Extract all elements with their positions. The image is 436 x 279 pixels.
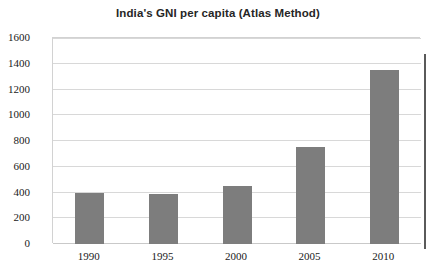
y-axis-tick-label: 1600: [0, 32, 30, 43]
bar-2000: [223, 186, 252, 244]
chart-figure: India's GNI per capita (Atlas Method) 02…: [0, 0, 436, 279]
y-axis-tick-label: 0: [0, 238, 30, 249]
bar-1995: [149, 194, 178, 244]
y-axis-tick-label: 200: [0, 212, 30, 223]
x-axis-tick-label: 2010: [353, 250, 413, 263]
x-axis-tick-label: 1995: [132, 250, 192, 263]
plot-area: 02004006008001000120014001600: [52, 37, 420, 243]
y-axis-tick-label: 800: [0, 135, 30, 146]
x-axis-tick-labels: 19901995200020052010: [52, 250, 420, 266]
x-axis-tick-label: 2000: [206, 250, 266, 263]
y-axis-tick-label: 400: [0, 187, 30, 198]
chart-title: India's GNI per capita (Atlas Method): [0, 7, 436, 19]
x-axis-tick-label: 1990: [59, 250, 119, 263]
bars-layer: [53, 38, 421, 244]
bar-2010: [370, 70, 399, 244]
y-axis-tick-label: 1000: [0, 109, 30, 120]
bar-2005: [296, 147, 325, 244]
y-axis-tick-label: 600: [0, 161, 30, 172]
right-frame-edge: [424, 54, 426, 249]
y-axis-tick-label: 1400: [0, 58, 30, 69]
bar-1990: [75, 193, 104, 245]
x-axis-tick-label: 2005: [280, 250, 340, 263]
y-axis-tick-label: 1200: [0, 84, 30, 95]
top-frame-edge: [0, 0, 436, 1]
